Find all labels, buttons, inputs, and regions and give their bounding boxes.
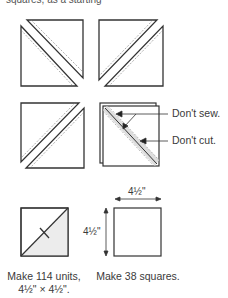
- dimension-height-label: 4½": [83, 226, 100, 237]
- stacked-squares: [100, 103, 159, 166]
- caption-units-line1: Make 114 units,: [2, 270, 86, 283]
- caption-units-line2: 4½" × 4½".: [2, 283, 86, 296]
- label-dont-sew: Don't sew.: [172, 107, 220, 119]
- hst-unit: [21, 208, 68, 256]
- hst-pair-middle-left: [21, 103, 84, 168]
- caption-squares: Make 38 squares.: [96, 270, 180, 283]
- diagram-canvas: [0, 0, 228, 298]
- plain-square: [114, 208, 161, 256]
- dimension-width-label: 4½": [128, 186, 145, 197]
- hst-pair-top-right: [99, 20, 163, 86]
- hst-pair-top-left: [21, 20, 83, 86]
- label-dont-cut: Don't cut.: [172, 134, 216, 146]
- caption-units: Make 114 units, 4½" × 4½".: [2, 270, 86, 296]
